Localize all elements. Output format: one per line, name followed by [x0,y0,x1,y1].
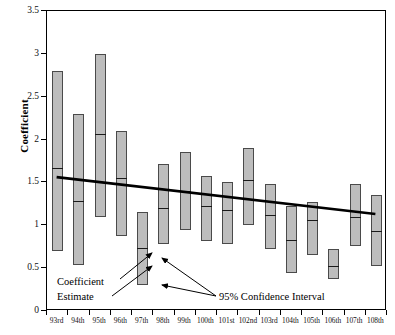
y-axis-tick-label: 0 [0,305,46,315]
confidence-interval-bar [350,184,361,246]
x-axis-tick-label: 107th [346,316,363,325]
x-axis-tick-label: 95th [93,316,106,325]
coefficient-estimate-marker [201,206,212,207]
x-axis-tick-label: 100th [197,316,214,325]
x-axis-tick-label: 99th [178,316,191,325]
x-axis-tick-label: 94th [71,316,84,325]
confidence-interval-bar [95,54,106,217]
coefficient-estimate-marker [95,134,106,135]
x-axis-tick-mark [46,310,47,315]
coefficient-estimate-marker [328,266,339,267]
coefficient-estimate-marker [52,168,63,169]
confidence-interval-bar [201,176,212,241]
x-axis-tick-label: 101st [219,316,235,325]
x-axis-tick-mark [152,310,153,315]
x-axis-tick-mark [322,310,323,315]
x-axis-tick-mark [131,310,132,315]
x-axis-tick-mark [301,310,302,315]
confidence-interval-bar [222,182,233,244]
y-axis-tick-label: 2.5 [0,91,46,101]
coefficient-estimate-marker [222,210,233,211]
coefficient-estimate-marker [307,220,318,221]
y-axis-tick-label: 0.5 [0,262,46,272]
confidence-interval-bar [265,184,276,249]
chart-title [60,0,360,2]
coefficient-estimate-marker [350,217,361,218]
x-axis-tick-label: 97th [135,316,148,325]
confidence-interval-bar [307,202,318,255]
confidence-interval-bar [328,249,339,279]
coefficient-estimate-marker [137,248,148,249]
confidence-interval-bar [52,71,63,251]
coefficient-estimate-marker [180,191,191,192]
x-axis-tick-label: 102nd [239,316,257,325]
coefficient-estimate-marker [286,240,297,241]
annotation-confidence-interval: 95% Confidence Interval [219,291,325,302]
x-axis-tick-mark [280,310,281,315]
x-axis-tick-label: 108th [367,316,384,325]
x-axis-tick-mark [344,310,345,315]
x-axis-tick-label: 105th [303,316,320,325]
confidence-interval-bar [158,164,169,245]
y-axis-tick-label: 3 [0,48,46,58]
x-axis-tick-mark [89,310,90,315]
x-axis-tick-label: 103rd [261,316,278,325]
x-axis-tick-mark [67,310,68,315]
coefficient-estimate-marker [116,178,127,179]
x-axis-tick-mark [195,310,196,315]
y-axis-tick-label: 1 [0,219,46,229]
y-axis-tick-label: 3.5 [0,5,46,15]
x-axis-tick-label: 106th [324,316,341,325]
coefficient-estimate-marker [371,231,382,232]
x-axis-tick-label: 104th [282,316,299,325]
y-axis-tick-label: 1.5 [0,176,46,186]
coefficient-estimate-marker [265,215,276,216]
coefficient-estimate-marker [243,180,254,181]
confidence-interval-bar [116,131,127,236]
coefficient-estimate-marker [73,201,84,202]
annotation-coefficient-estimate-line1: Coefficient [57,276,104,287]
confidence-interval-bar [73,114,84,265]
x-axis-tick-label: 98th [156,316,169,325]
x-axis-tick-mark [237,310,238,315]
x-axis-tick-mark [259,310,260,315]
x-axis-tick-mark [216,310,217,315]
x-axis-tick-label: 96th [114,316,127,325]
chart-root: Coefficient 00.511.522.533.5 93rd94th95t… [0,0,395,335]
coefficient-estimate-marker [158,208,169,209]
x-axis-tick-mark [110,310,111,315]
plot-area [46,10,386,310]
x-axis-tick-mark [365,310,366,315]
x-axis-tick-mark [174,310,175,315]
confidence-interval-bar [243,148,254,225]
annotation-coefficient-estimate-line2: Estimate [57,291,94,302]
x-axis-tick-mark [386,310,387,315]
x-axis-tick-label: 93rd [50,316,64,325]
y-axis-tick-label: 2 [0,134,46,144]
